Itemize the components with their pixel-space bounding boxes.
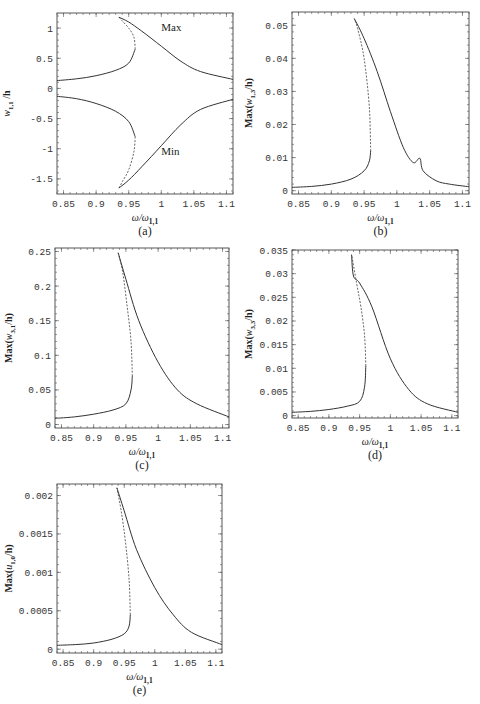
x-tick-label: 1 [152,658,158,669]
x-tick-label: 1.1 [207,658,224,669]
y-tick-label: 0.5 [36,54,53,65]
stable-branch-curve [352,255,458,413]
y-axis-label: Max(w1,3/h) [243,78,257,128]
plot-frame [55,248,229,428]
stable-branch-curve [119,99,233,188]
chart-d: 0.850.90.9511.051.100.0050.010.0150.020.… [240,235,480,475]
y-tick-label: 0.05 [265,21,288,32]
chart-b: 0.850.90.9511.051.100.010.020.030.040.05… [240,0,480,235]
stable-branch-curve [57,615,130,646]
x-tick-label: 0.9 [323,199,340,210]
stable-branch-curve [57,49,135,80]
x-tick-label: 0.85 [287,423,310,434]
curve-annotation: Min [161,145,180,157]
panel-a: 0.850.90.9511.051.1-1.5-1-0.500.51ω/ω1,1… [0,0,240,235]
y-tick-label: 0 [47,645,53,656]
y-tick-label: 0.25 [28,247,51,258]
x-tick-label: 0.95 [348,423,371,434]
x-tick-label: 0.85 [50,433,73,444]
plot-frame [57,484,222,653]
x-tick-label: 1.1 [214,433,231,444]
chart-a: 0.850.90.9511.051.1-1.5-1-0.500.51ω/ω1,1… [0,0,240,235]
chart-c: 0.850.90.9511.051.100.050.10.150.20.25ω/… [0,235,240,475]
y-tick-label: 0.005 [259,387,288,398]
y-axis-label: Max(w3,3/h) [243,309,257,359]
unstable-branch-curve [117,488,130,615]
x-tick-label: 0.9 [88,199,105,210]
y-tick-label: 0.001 [24,568,53,579]
unstable-branch-curve [119,17,135,49]
y-tick-label: -1 [42,144,54,155]
x-tick-label: 1.1 [443,423,460,434]
x-tick-label: 1.05 [182,199,205,210]
x-tick-label: 1 [155,433,161,444]
unstable-branch-curve [354,19,370,151]
y-tick-label: 0 [282,411,288,422]
x-tick-label: 1 [388,423,394,434]
y-axis-label: Max(u1,0/h) [3,544,17,592]
x-tick-label: 0.95 [114,433,137,444]
y-tick-label: 0.15 [28,316,51,327]
x-tick-label: 0.9 [85,433,102,444]
x-tick-label: 1.05 [179,433,202,444]
y-tick-label: 1 [47,24,53,35]
x-tick-label: 0.95 [113,658,136,669]
stable-branch-curve [117,488,222,645]
y-tick-label: 0 [282,186,288,197]
stable-branch-curve [118,253,229,417]
x-tick-label: 1.05 [410,423,433,434]
unstable-branch-curve [119,137,135,188]
y-tick-label: 0.01 [265,153,288,164]
y-tick-label: 0.0005 [19,606,54,617]
x-tick-label: 1 [158,199,164,210]
chart-e: 0.850.90.9511.051.100.00050.0010.00150.0… [0,470,240,704]
x-tick-label: 0.95 [353,199,376,210]
y-tick-label: 0.1 [34,351,51,362]
y-axis-label: Max(w3,1/h) [3,313,17,363]
stable-branch-curve [55,376,132,418]
y-tick-label: 0.02 [265,316,288,327]
panel-e: 0.850.90.9511.051.100.00050.0010.00150.0… [0,470,240,704]
x-tick-label: 0.85 [52,199,75,210]
y-tick-label: 0.0015 [19,529,54,540]
x-tick-label: 1.05 [418,199,441,210]
x-tick-label: 0.9 [320,423,337,434]
y-tick-label: 0.04 [265,54,288,65]
x-tick-label: 1.1 [218,199,235,210]
panel-d: 0.850.90.9511.051.100.0050.010.0150.020.… [240,235,480,475]
x-tick-label: 1.1 [454,199,471,210]
y-tick-label: 0.02 [265,120,288,131]
y-tick-label: 0.002 [24,491,53,502]
x-tick-label: 0.85 [287,199,310,210]
y-tick-label: 0 [45,420,51,431]
y-tick-label: -1.5 [30,174,53,185]
y-tick-label: 0.03 [265,87,288,98]
y-tick-label: 0.2 [34,282,51,293]
x-tick-label: 0.95 [117,199,140,210]
unstable-branch-curve [352,255,366,366]
unstable-branch-curve [118,253,132,376]
plot-frame [292,12,469,194]
y-tick-label: 0.03 [265,269,288,280]
y-tick-label: -0.5 [30,114,53,125]
x-tick-label: 1.05 [174,658,197,669]
stable-branch-curve [354,19,469,187]
panel-caption: (d) [368,448,382,462]
plot-frame [57,13,233,194]
panel-b: 0.850.90.9511.051.100.010.020.030.040.05… [240,0,480,235]
plot-frame [292,250,458,418]
stable-branch-curve [292,366,366,412]
x-tick-label: 1 [394,199,400,210]
y-tick-label: 0.01 [265,364,288,375]
curve-annotation: Max [161,21,182,33]
stable-branch-curve [57,96,135,136]
stable-branch-curve [292,151,371,187]
x-tick-label: 0.85 [52,658,75,669]
x-tick-label: 0.9 [85,658,102,669]
y-tick-label: 0.025 [259,293,288,304]
panel-c: 0.850.90.9511.051.100.050.10.150.20.25ω/… [0,235,240,475]
y-axis-label: w1,1 /h [1,90,15,117]
y-tick-label: 0.015 [259,340,288,351]
y-tick-label: 0.035 [259,246,288,257]
y-tick-label: 0 [47,84,53,95]
